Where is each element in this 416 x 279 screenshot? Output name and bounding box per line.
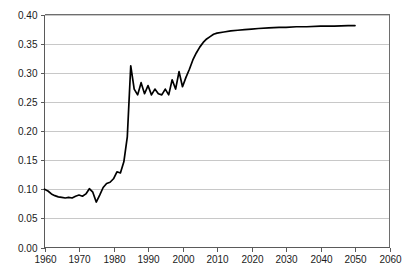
chart-canvas: 0.000.050.100.150.200.250.300.350.401960…	[0, 0, 416, 279]
y-tick-label-0.40: 0.40	[18, 10, 38, 21]
x-tick-label-1980: 1980	[103, 254, 126, 265]
x-tick-label-1960: 1960	[34, 254, 57, 265]
y-tick-label-0.35: 0.35	[18, 39, 38, 50]
y-tick-label-0.05: 0.05	[18, 213, 38, 224]
x-tick-label-1990: 1990	[137, 254, 160, 265]
x-tick-label-2010: 2010	[206, 254, 229, 265]
line-chart: 0.000.050.100.150.200.250.300.350.401960…	[0, 0, 416, 279]
y-tick-label-0.25: 0.25	[18, 97, 38, 108]
y-tick-label-0.10: 0.10	[18, 184, 38, 195]
y-tick-label-0.15: 0.15	[18, 155, 38, 166]
x-tick-label-2030: 2030	[275, 254, 298, 265]
y-tick-label-0.30: 0.30	[18, 68, 38, 79]
x-tick-label-2000: 2000	[172, 254, 195, 265]
y-tick-label-0.20: 0.20	[18, 126, 38, 137]
x-tick-label-2050: 2050	[344, 254, 367, 265]
x-tick-label-2060: 2060	[379, 254, 402, 265]
y-tick-label-0.00: 0.00	[18, 243, 38, 254]
data-series-series-1	[45, 26, 356, 202]
x-tick-label-2020: 2020	[241, 254, 264, 265]
x-tick-label-2040: 2040	[310, 254, 333, 265]
x-tick-label-1970: 1970	[68, 254, 91, 265]
